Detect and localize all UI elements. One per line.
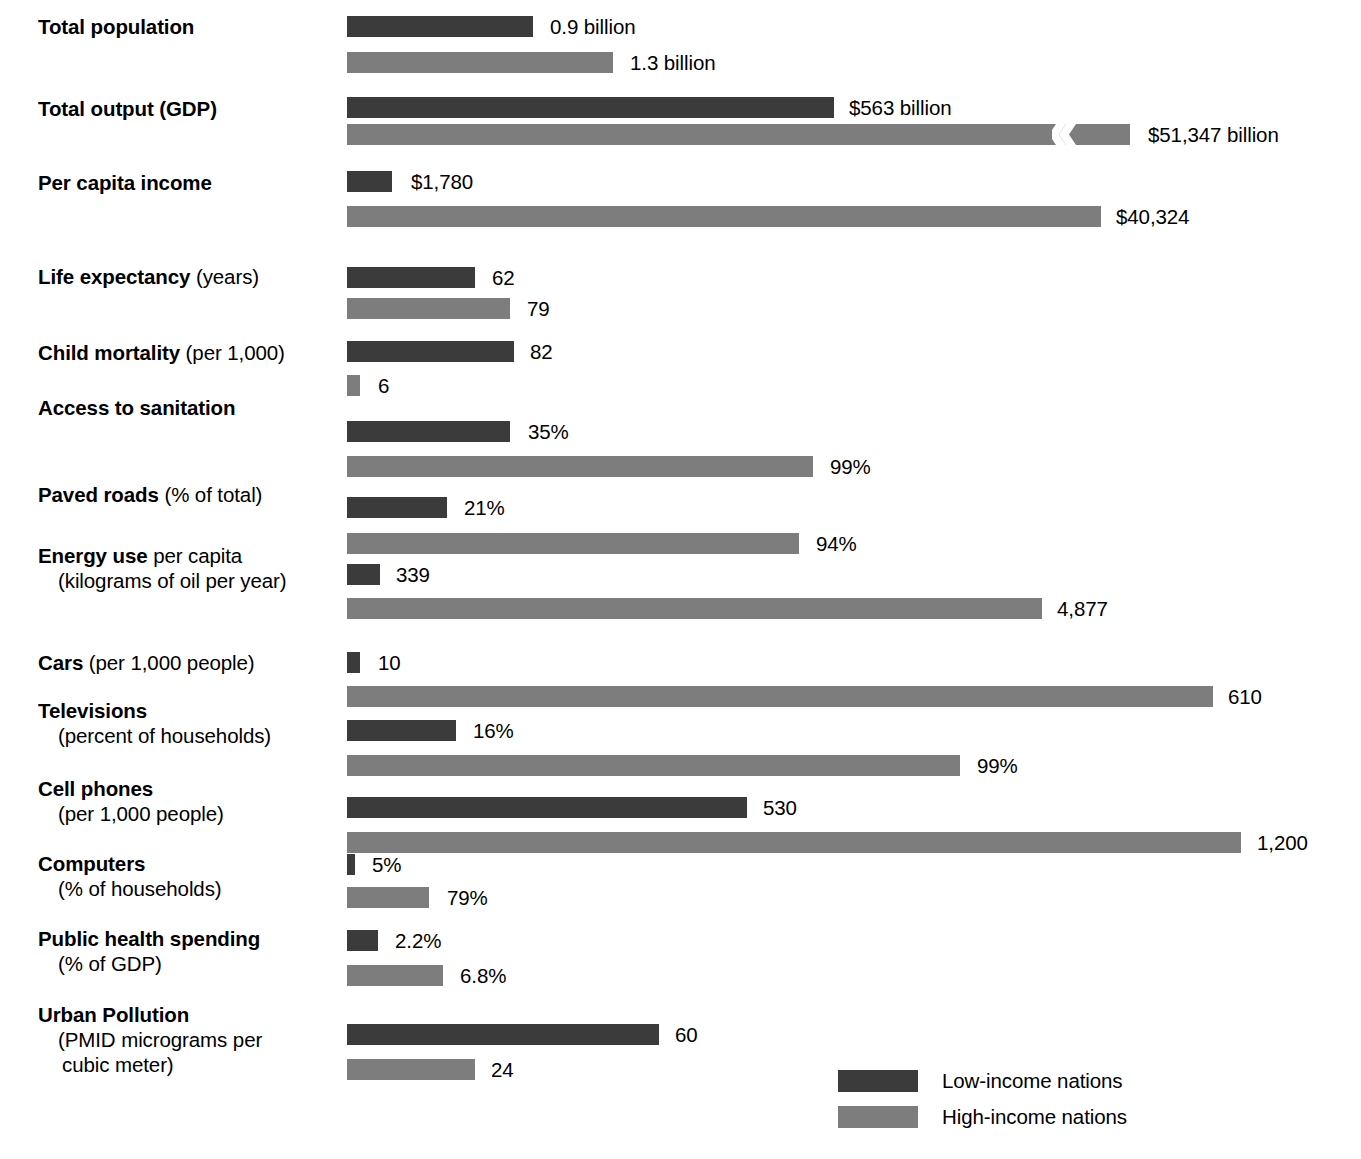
bar-low-urban-pollution (347, 1024, 659, 1045)
row-label-line3-urban-pollution: cubic meter) (62, 1052, 174, 1077)
row-label-tail-life-expectancy: (years) (190, 265, 259, 288)
bar-value-low-total-population: 0.9 billion (550, 16, 636, 37)
bar-high-computers (347, 887, 429, 908)
row-label-public-health-spending: Public health spending (38, 926, 260, 951)
bar-low-access-to-sanitation (347, 421, 510, 442)
bar-high-child-mortality (347, 375, 360, 396)
bar-value-high-urban-pollution: 24 (491, 1059, 514, 1080)
row-label-tail-child-mortality: (per 1,000) (180, 341, 285, 364)
bar-value-low-public-health-spending: 2.2% (395, 930, 441, 951)
bar-value-high-cars: 610 (1228, 686, 1262, 707)
row-label-lead-energy-use: Energy use (38, 544, 148, 567)
bar-value-low-televisions: 16% (473, 720, 514, 741)
bar-low-total-output-gdp (347, 97, 834, 118)
bar-high-cell-phones (347, 832, 1241, 853)
row-label-tail-cars: (per 1,000 people) (83, 651, 254, 674)
row-label-lead-cell-phones: Cell phones (38, 777, 153, 800)
row-label-line2-public-health-spending: (% of GDP) (58, 951, 162, 976)
bar-high-cars (347, 686, 1213, 707)
bar-low-televisions (347, 720, 456, 741)
bar-high-public-health-spending (347, 965, 443, 986)
row-label-line2-cell-phones: (per 1,000 people) (58, 801, 224, 826)
bar-value-low-per-capita-income: $1,780 (411, 171, 473, 192)
row-label-total-output-gdp: Total output (GDP) (38, 96, 217, 121)
row-label-access-to-sanitation: Access to sanitation (38, 395, 235, 420)
bar-value-high-per-capita-income: $40,324 (1116, 206, 1189, 227)
bar-value-high-total-population: 1.3 billion (630, 52, 716, 73)
bar-high-life-expectancy (347, 298, 510, 319)
bar-value-high-computers: 79% (447, 887, 488, 908)
legend-label-low-income: Low-income nations (942, 1067, 1123, 1095)
bar-value-low-energy-use: 339 (396, 564, 430, 585)
bar-high-access-to-sanitation (347, 456, 813, 477)
row-label-line2-computers: (% of households) (58, 876, 222, 901)
bar-low-energy-use (347, 564, 380, 585)
bar-value-high-televisions: 99% (977, 755, 1018, 776)
bar-value-low-cars: 10 (378, 652, 401, 673)
bar-low-total-population (347, 16, 533, 37)
bar-value-low-paved-roads: 21% (464, 497, 505, 518)
legend-swatch-high-income (838, 1106, 918, 1128)
row-label-cell-phones: Cell phones (38, 776, 153, 801)
bar-low-paved-roads (347, 497, 447, 518)
legend-label-high-income: High-income nations (942, 1103, 1127, 1131)
row-label-lead-cars: Cars (38, 651, 83, 674)
row-label-paved-roads: Paved roads (% of total) (38, 482, 262, 507)
row-label-lead-paved-roads: Paved roads (38, 483, 159, 506)
row-label-lead-public-health-spending: Public health spending (38, 927, 260, 950)
row-label-lead-total-population: Total population (38, 15, 194, 38)
row-label-televisions: Televisions (38, 698, 147, 723)
bar-high-per-capita-income (347, 206, 1101, 227)
row-label-lead-per-capita-income: Per capita income (38, 171, 212, 194)
bar-value-high-total-output-gdp: $51,347 billion (1148, 124, 1279, 145)
row-label-lead-computers: Computers (38, 852, 145, 875)
comparison-bar-chart: Total population0.9 billion1.3 billionTo… (0, 0, 1361, 1159)
bar-low-child-mortality (347, 341, 514, 362)
bar-value-low-access-to-sanitation: 35% (528, 421, 569, 442)
bar-value-low-life-expectancy: 62 (492, 267, 515, 288)
bar-high-urban-pollution (347, 1059, 475, 1080)
bar-value-low-computers: 5% (372, 854, 401, 875)
bar-low-cell-phones (347, 797, 747, 818)
row-label-lead-total-output-gdp: Total output (GDP) (38, 97, 217, 120)
row-label-cars: Cars (per 1,000 people) (38, 650, 255, 675)
row-label-lead-access-to-sanitation: Access to sanitation (38, 396, 235, 419)
bar-value-high-energy-use: 4,877 (1057, 598, 1108, 619)
bar-high-total-output-gdp (347, 124, 1130, 145)
bar-high-total-population (347, 52, 613, 73)
bar-value-low-cell-phones: 530 (763, 797, 797, 818)
row-label-line2-televisions: (percent of households) (58, 723, 271, 748)
row-label-computers: Computers (38, 851, 145, 876)
row-label-lead-urban-pollution: Urban Pollution (38, 1003, 189, 1026)
bar-value-high-access-to-sanitation: 99% (830, 456, 871, 477)
bar-value-low-child-mortality: 82 (530, 341, 553, 362)
row-label-line2-energy-use: (kilograms of oil per year) (58, 568, 287, 593)
bar-value-high-public-health-spending: 6.8% (460, 965, 506, 986)
bar-low-public-health-spending (347, 930, 378, 951)
bar-low-per-capita-income (347, 171, 392, 192)
row-label-per-capita-income: Per capita income (38, 170, 212, 195)
bar-low-computers (347, 854, 355, 875)
row-label-line2-urban-pollution: (PMID micrograms per (58, 1027, 262, 1052)
row-label-energy-use: Energy use per capita (38, 543, 242, 568)
row-label-lead-life-expectancy: Life expectancy (38, 265, 190, 288)
bar-low-life-expectancy (347, 267, 475, 288)
bar-value-low-total-output-gdp: $563 billion (849, 97, 952, 118)
bar-value-high-paved-roads: 94% (816, 533, 857, 554)
bar-value-high-child-mortality: 6 (378, 375, 389, 396)
row-label-urban-pollution: Urban Pollution (38, 1002, 189, 1027)
row-label-total-population: Total population (38, 14, 194, 39)
bar-value-high-cell-phones: 1,200 (1257, 832, 1308, 853)
bar-high-paved-roads (347, 533, 799, 554)
bar-high-televisions (347, 755, 960, 776)
bar-value-high-life-expectancy: 79 (527, 298, 550, 319)
row-label-child-mortality: Child mortality (per 1,000) (38, 340, 285, 365)
bar-value-low-urban-pollution: 60 (675, 1024, 698, 1045)
legend-swatch-low-income (838, 1070, 918, 1092)
bar-high-energy-use (347, 598, 1042, 619)
row-label-lead-child-mortality: Child mortality (38, 341, 180, 364)
bar-low-cars (347, 652, 360, 673)
row-label-tail-paved-roads: (% of total) (159, 483, 263, 506)
row-label-lead-televisions: Televisions (38, 699, 147, 722)
row-label-tail-energy-use: per capita (148, 544, 243, 567)
